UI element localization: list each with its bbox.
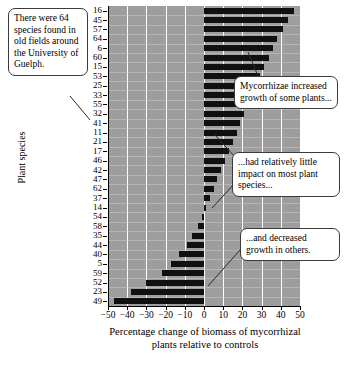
mycorrhizae-biomass-figure: −50−40−30−20−1001020304050 1645576466015… (0, 0, 347, 376)
callout-increased-growth: Mycorrhizae increased growth of some pla… (234, 76, 338, 109)
callout-little-impact: ...had relatively little impact on most … (232, 152, 340, 197)
callout-species-count: There were 64 species found in old field… (8, 8, 88, 76)
callout-decreased-growth: ...and decreased growth in others. (240, 228, 340, 261)
